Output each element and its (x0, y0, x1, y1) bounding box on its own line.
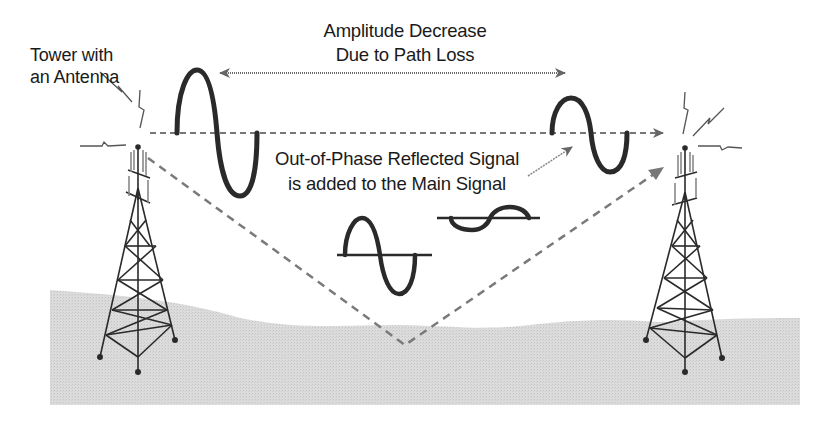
main-signal-component (337, 218, 432, 294)
tower-label-line1: Tower with (30, 44, 119, 66)
reflection-label: Out-of-Phase Reflected Signal is added t… (262, 146, 532, 196)
path-loss-title-line2: Due to Path Loss (300, 43, 510, 67)
label-pointer-arrow (528, 147, 572, 176)
reflected-path-arrowhead (648, 167, 664, 180)
tower-label-line2: an Antenna (30, 66, 119, 88)
reflected-signal-component (437, 207, 540, 230)
tower-label: Tower with an Antenna (30, 44, 119, 88)
reflection-label-line2: is added to the Main Signal (262, 171, 532, 196)
path-loss-title-line1: Amplitude Decrease (300, 19, 510, 43)
path-loss-title: Amplitude Decrease Due to Path Loss (300, 19, 510, 67)
reflection-label-line1: Out-of-Phase Reflected Signal (262, 146, 532, 171)
attenuated-signal-wave (552, 98, 627, 172)
